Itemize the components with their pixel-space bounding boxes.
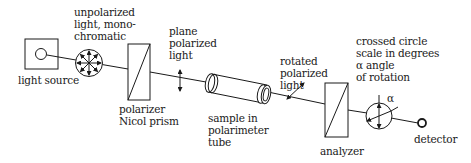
label-analyzer: analyzer <box>320 145 364 157</box>
detector-icon <box>418 119 426 127</box>
label-rotated-polarized-light: rotated polarized light <box>280 55 328 91</box>
label-plane-polarized-light: plane polarized light <box>169 25 217 61</box>
sample-tube-icon <box>204 73 272 105</box>
label-detector: detector <box>414 133 457 145</box>
light-source-box <box>25 39 58 69</box>
label-unpolarized-light: unpolarized light, mono- chromatic <box>74 6 136 42</box>
label-alpha: α <box>387 92 394 104</box>
beam-line <box>268 92 325 104</box>
analyzer-prism-icon <box>325 83 348 137</box>
light-source-bulb-icon <box>36 49 47 60</box>
label-polarizer: polarizer Nicol prism <box>119 103 179 127</box>
label-light-source: light source <box>18 74 79 86</box>
label-scale: crossed circle scale in degrees α angle … <box>356 35 439 83</box>
beam-line <box>150 72 206 82</box>
unpolarized-light-icon <box>76 50 103 77</box>
label-sample-tube: sample in polarimeter tube <box>208 112 268 148</box>
beam-line <box>348 110 367 113</box>
polarizer-prism-icon <box>128 44 150 100</box>
beam-line <box>391 118 418 123</box>
